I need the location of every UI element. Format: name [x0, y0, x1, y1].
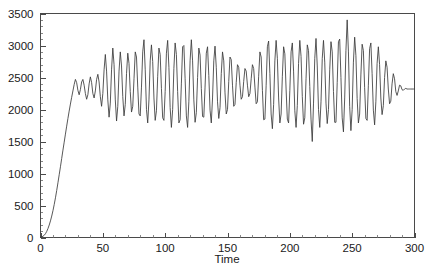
- x-tick-label: 0: [37, 242, 43, 254]
- x-tick-label: 100: [156, 242, 175, 254]
- y-tick-label: 0: [27, 232, 33, 244]
- y-tick-label: 1000: [8, 168, 34, 180]
- y-tick-label: 1500: [8, 136, 34, 148]
- y-tick-label: 3500: [8, 8, 34, 20]
- x-tick-label: 200: [280, 242, 299, 254]
- x-tick-label: 300: [405, 242, 424, 254]
- y-tick-label: 3000: [8, 40, 34, 52]
- chart-background: [0, 0, 430, 268]
- y-tick-label: 500: [14, 200, 33, 212]
- chart-figure: 0500100015002000250030003500 05010015020…: [0, 0, 430, 268]
- x-axis-title: Time: [214, 253, 239, 265]
- line-chart-svg: 0500100015002000250030003500 05010015020…: [0, 0, 430, 268]
- x-tick-label: 150: [218, 242, 237, 254]
- x-tick-label: 50: [96, 242, 109, 254]
- y-tick-label: 2500: [8, 72, 34, 84]
- y-tick-label: 2000: [8, 104, 34, 116]
- x-tick-label: 250: [343, 242, 362, 254]
